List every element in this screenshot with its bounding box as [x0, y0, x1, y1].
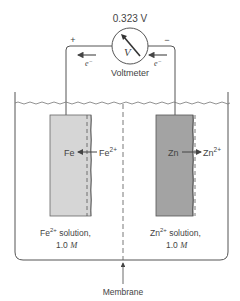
zn-electrode-label: Zn: [168, 148, 179, 158]
fe-solution-label: Fe2+ solution,: [40, 227, 91, 238]
right-wire: [148, 46, 175, 116]
fe-concentration: 1.0 M: [56, 240, 78, 250]
left-wire: [66, 46, 112, 116]
zn-ion-label: Zn2+: [203, 146, 221, 158]
zn-concentration: 1.0 M: [166, 240, 188, 250]
voltmeter-label: Voltmeter: [111, 68, 149, 78]
solution-surface: [15, 102, 230, 104]
electron-label-left: e−: [85, 58, 93, 68]
zn-electrode: [156, 115, 193, 216]
galvanic-cell-diagram: 0.323 V V + − e− e− Voltmeter Fe Fe2+ Zn…: [0, 0, 240, 301]
positive-terminal-sign: +: [70, 35, 75, 45]
electron-label-right: e−: [154, 58, 162, 68]
fe-electrode: [50, 115, 91, 216]
fe-ion-label: Fe2+: [99, 146, 117, 158]
zn-solution-label: Zn2+ solution,: [150, 227, 201, 238]
voltmeter-icon: V: [112, 28, 148, 64]
negative-terminal-sign: −: [164, 35, 169, 45]
membrane-label: Membrane: [103, 287, 144, 297]
voltage-reading: 0.323 V: [113, 13, 148, 24]
fe-electrode-label: Fe: [64, 148, 75, 158]
